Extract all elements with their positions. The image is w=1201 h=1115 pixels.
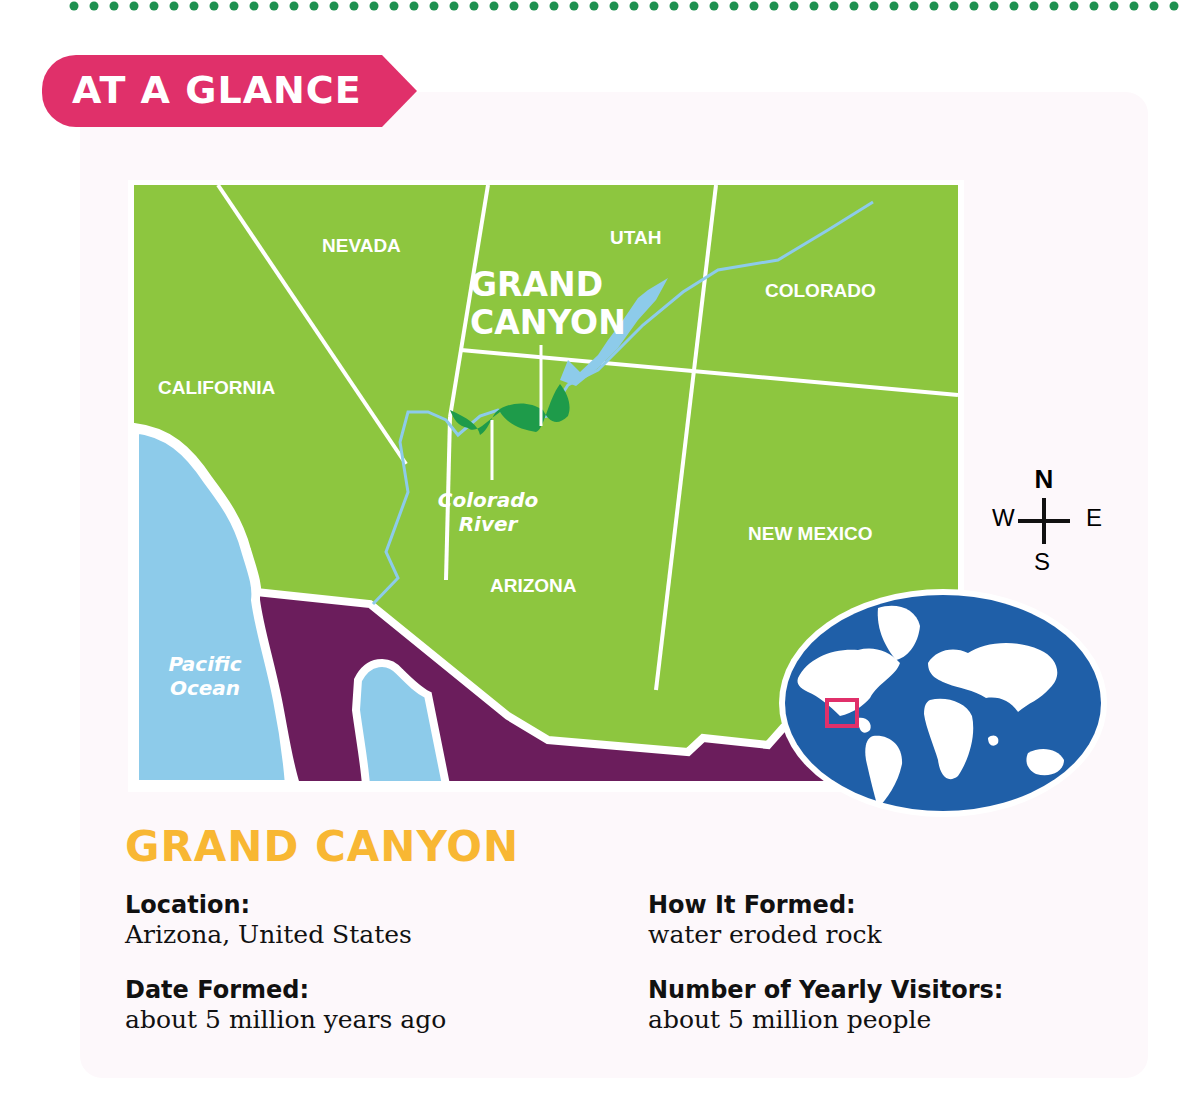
banner-title: AT A GLANCE [72, 66, 362, 114]
fact-label: Date Formed: [125, 975, 545, 1005]
dotted-divider [0, 0, 1201, 20]
fact-yearly-visitors: Number of Yearly Visitors: about 5 milli… [648, 975, 1108, 1035]
fact-value: about 5 million people [648, 1005, 1108, 1035]
world-locator-globe-icon [778, 588, 1108, 818]
fact-label: How It Formed: [648, 890, 1108, 920]
compass-rose-icon: N W E S [990, 464, 1110, 594]
label-colorado-river: Colorado River [428, 488, 548, 536]
label-colorado: COLORADO [765, 280, 876, 302]
label-arizona: ARIZONA [490, 575, 577, 597]
fact-value: about 5 million years ago [125, 1005, 545, 1035]
fact-location: Location: Arizona, United States [125, 890, 545, 950]
fact-label: Location: [125, 890, 545, 920]
fact-how-formed: How It Formed: water eroded rock [648, 890, 1108, 950]
section-title: GRAND CANYON [125, 822, 519, 871]
label-ocean-line1: Pacific [150, 652, 260, 676]
compass-horizontal-bar [1018, 519, 1070, 523]
label-river-line1: Colorado [428, 488, 548, 512]
label-new-mexico: NEW MEXICO [748, 523, 873, 545]
compass-west: W [992, 504, 1015, 532]
label-grand-canyon: GRAND CANYON [470, 266, 626, 342]
fact-label: Number of Yearly Visitors: [648, 975, 1108, 1005]
label-ocean-line2: Ocean [150, 676, 260, 700]
label-nevada: NEVADA [322, 235, 401, 257]
label-grand-canyon-line1: GRAND [470, 266, 626, 304]
label-utah: UTAH [610, 227, 661, 249]
label-pacific-ocean: Pacific Ocean [150, 652, 260, 700]
fact-value: Arizona, United States [125, 920, 545, 950]
compass-east: E [1086, 504, 1102, 532]
label-grand-canyon-line2: CANYON [470, 304, 626, 342]
compass-north: N [1032, 464, 1056, 495]
compass-south: S [1034, 548, 1050, 576]
label-river-line2: River [428, 512, 548, 536]
fact-date-formed: Date Formed: about 5 million years ago [125, 975, 545, 1035]
label-california: CALIFORNIA [158, 377, 275, 399]
fact-value: water eroded rock [648, 920, 1108, 950]
